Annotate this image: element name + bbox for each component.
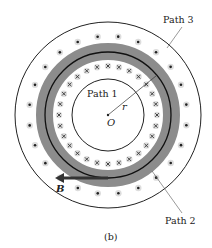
dot-icon [169,162,172,165]
dot-icon [28,124,31,127]
dot-icon [185,103,188,106]
dot-icon [76,41,79,44]
dot-icon [34,144,37,147]
path-3-leader [167,27,182,48]
dot-icon [137,187,140,190]
dot-icon [44,162,47,165]
dot-icon [59,51,62,54]
radius-label: r [122,101,128,112]
dot-icon [77,187,80,190]
dot-icon [169,66,172,69]
dot-icon [180,144,183,147]
figure-caption: (b) [104,231,118,242]
path-2-label: Path 2 [165,215,196,226]
arrowhead-icon [55,173,64,183]
center-point [107,114,109,116]
dot-icon [44,66,47,69]
dot-icon [180,83,183,86]
dot-icon [34,84,37,87]
dot-icon [117,35,120,38]
dot-icon [96,192,99,195]
dot-icon [96,35,99,38]
dot-icon [137,41,140,44]
dot-icon [155,51,158,54]
path-3-label: Path 3 [163,14,194,25]
dot-icon [185,124,188,127]
dot-icon [28,103,31,106]
toroid-diagram: Path 3 Path 1 Path 2 O r B (b) [0,0,212,248]
path-1-label: Path 1 [87,88,118,99]
field-label: B [55,183,64,194]
dot-icon [117,192,120,195]
center-label: O [107,117,115,128]
